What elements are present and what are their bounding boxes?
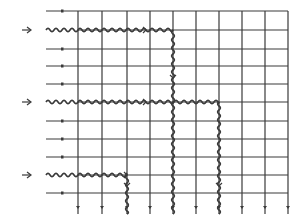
grid-diagram <box>0 0 304 224</box>
column-arrowhead-icon <box>76 206 80 209</box>
row-tick-mark <box>61 48 64 51</box>
diagram-svg <box>0 0 304 224</box>
row-tick-mark <box>61 120 64 123</box>
column-arrowhead-icon <box>263 206 267 209</box>
path-3-horizontal <box>46 173 127 176</box>
row-tick-mark <box>61 156 64 159</box>
column-arrowhead-icon <box>240 206 244 209</box>
path-1-horizontal <box>46 28 173 31</box>
row-tick-mark <box>61 10 64 13</box>
column-arrowhead-icon <box>100 206 104 209</box>
path-2-vertical <box>218 102 221 214</box>
row-tick-mark <box>61 83 64 86</box>
path-2-vertical <box>172 102 175 214</box>
column-arrowhead-icon <box>148 206 152 209</box>
row-tick-mark <box>61 192 64 195</box>
column-arrowhead-icon <box>194 206 198 209</box>
row-tick-mark <box>61 138 64 141</box>
row-tick-mark <box>61 65 64 68</box>
column-arrowhead-icon <box>286 206 290 209</box>
